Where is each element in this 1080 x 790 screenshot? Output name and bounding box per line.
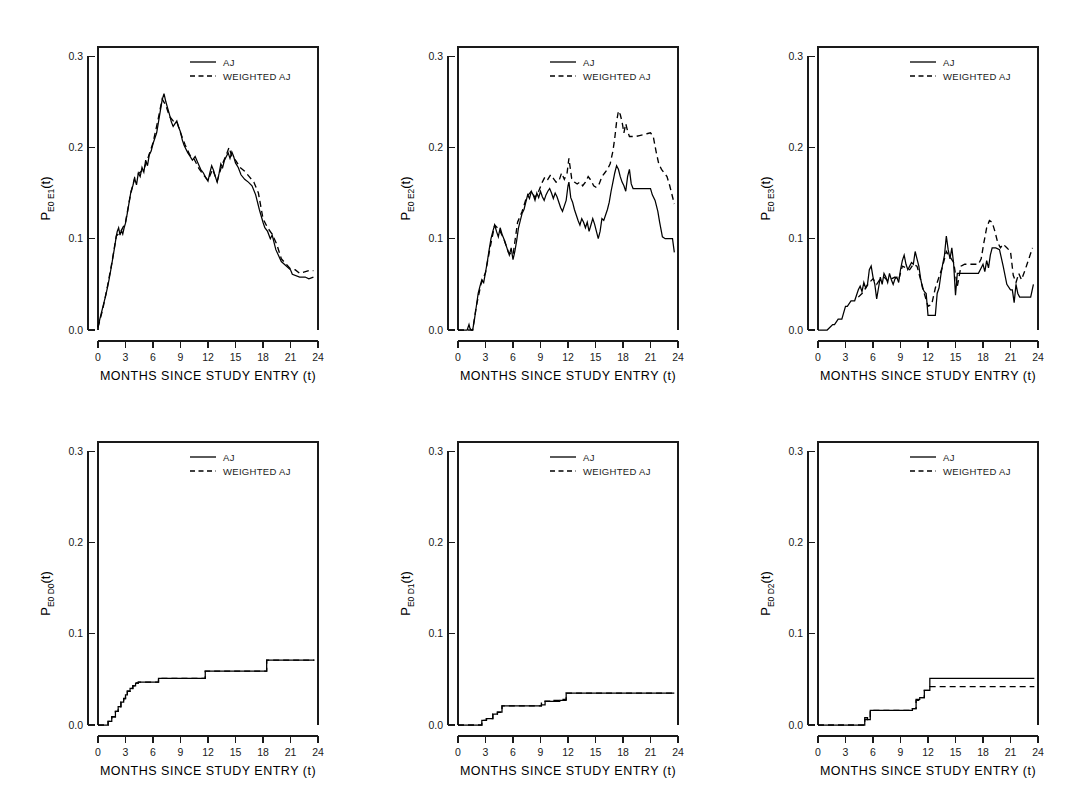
plot-frame bbox=[98, 47, 318, 330]
y-tick-label: 0.0 bbox=[428, 719, 443, 731]
x-tick-label: 21 bbox=[645, 746, 657, 758]
x-tick-label: 6 bbox=[150, 746, 156, 758]
x-tick-label: 18 bbox=[617, 746, 629, 758]
y-tick-label: 0.0 bbox=[788, 719, 803, 731]
panel-e0d0: 0.00.10.20.303691215182124MONTHS SINCE S… bbox=[0, 395, 360, 790]
x-tick-label: 0 bbox=[95, 746, 101, 758]
legend-label: AJ bbox=[583, 452, 595, 463]
x-tick-label: 21 bbox=[1005, 351, 1017, 363]
legend-label: WEIGHTED AJ bbox=[223, 466, 291, 477]
series-line-solid bbox=[818, 236, 1033, 330]
legend-label: AJ bbox=[943, 452, 955, 463]
legend: AJWEIGHTED AJ bbox=[550, 452, 651, 477]
x-tick-label: 0 bbox=[455, 746, 461, 758]
legend-label: AJ bbox=[223, 452, 235, 463]
y-axis-title: PE0 D2(t) bbox=[758, 571, 776, 616]
legend-label: WEIGHTED AJ bbox=[583, 466, 651, 477]
y-tick-label: 0.3 bbox=[68, 50, 83, 62]
x-tick-label: 9 bbox=[538, 746, 544, 758]
legend-label: AJ bbox=[943, 57, 955, 68]
y-axis-title: PE0 E1(t) bbox=[38, 176, 56, 220]
x-tick-label: 0 bbox=[815, 746, 821, 758]
svg-text:PE0 E3(t): PE0 E3(t) bbox=[758, 176, 776, 220]
figure-panel-grid: 0.00.10.20.303691215182124MONTHS SINCE S… bbox=[0, 0, 1080, 790]
legend-label: WEIGHTED AJ bbox=[943, 466, 1011, 477]
panel-e0d2: 0.00.10.20.303691215182124MONTHS SINCE S… bbox=[720, 395, 1080, 790]
y-tick-label: 0.0 bbox=[68, 719, 83, 731]
x-tick-label: 18 bbox=[977, 351, 989, 363]
x-tick-label: 3 bbox=[483, 746, 489, 758]
x-tick-label: 3 bbox=[843, 351, 849, 363]
x-tick-label: 6 bbox=[870, 746, 876, 758]
svg-text:PE0 E1(t): PE0 E1(t) bbox=[38, 176, 56, 220]
legend: AJWEIGHTED AJ bbox=[190, 57, 291, 82]
panel-e0e2: 0.00.10.20.303691215182124MONTHS SINCE S… bbox=[360, 0, 720, 395]
y-tick-label: 0.2 bbox=[788, 536, 803, 548]
legend: AJWEIGHTED AJ bbox=[550, 57, 651, 82]
series-line-dashed bbox=[858, 220, 1032, 306]
legend: AJWEIGHTED AJ bbox=[910, 452, 1011, 477]
x-axis-title: MONTHS SINCE STUDY ENTRY (t) bbox=[820, 369, 1036, 383]
svg-text:PE0 D0(t): PE0 D0(t) bbox=[38, 571, 56, 616]
legend: AJWEIGHTED AJ bbox=[910, 57, 1011, 82]
x-tick-label: 0 bbox=[95, 351, 101, 363]
x-tick-label: 24 bbox=[312, 746, 324, 758]
x-tick-label: 6 bbox=[510, 351, 516, 363]
y-tick-label: 0.3 bbox=[68, 445, 83, 457]
x-tick-label: 24 bbox=[672, 351, 684, 363]
y-tick-label: 0.0 bbox=[68, 324, 83, 336]
x-tick-label: 0 bbox=[455, 351, 461, 363]
y-tick-label: 0.1 bbox=[68, 232, 83, 244]
x-tick-label: 12 bbox=[202, 746, 214, 758]
y-tick-label: 0.1 bbox=[428, 232, 443, 244]
legend: AJWEIGHTED AJ bbox=[190, 452, 291, 477]
x-tick-label: 6 bbox=[150, 351, 156, 363]
x-tick-label: 9 bbox=[898, 746, 904, 758]
series-line-dashed bbox=[818, 687, 1034, 725]
series-line-dashed bbox=[458, 111, 674, 330]
x-tick-label: 9 bbox=[178, 746, 184, 758]
x-tick-label: 24 bbox=[1032, 746, 1044, 758]
x-axis-title: MONTHS SINCE STUDY ENTRY (t) bbox=[100, 369, 316, 383]
x-tick-label: 15 bbox=[230, 351, 242, 363]
series-line-solid bbox=[98, 660, 314, 725]
y-axis-title: PE0 D0(t) bbox=[38, 571, 56, 616]
x-tick-label: 15 bbox=[590, 351, 602, 363]
series-line-solid bbox=[98, 94, 313, 328]
y-tick-label: 0.1 bbox=[788, 627, 803, 639]
x-tick-label: 18 bbox=[977, 746, 989, 758]
svg-text:PE0 E2(t): PE0 E2(t) bbox=[398, 176, 416, 220]
plot-frame bbox=[98, 442, 318, 725]
x-tick-label: 18 bbox=[257, 351, 269, 363]
panel-e0d1: 0.00.10.20.303691215182124MONTHS SINCE S… bbox=[360, 395, 720, 790]
legend-label: WEIGHTED AJ bbox=[223, 71, 291, 82]
x-axis-title: MONTHS SINCE STUDY ENTRY (t) bbox=[100, 764, 316, 778]
x-tick-label: 12 bbox=[562, 351, 574, 363]
legend-label: WEIGHTED AJ bbox=[943, 71, 1011, 82]
x-tick-label: 24 bbox=[672, 746, 684, 758]
x-tick-label: 12 bbox=[562, 746, 574, 758]
x-axis-title: MONTHS SINCE STUDY ENTRY (t) bbox=[820, 764, 1036, 778]
svg-text:PE0 D1(t): PE0 D1(t) bbox=[398, 571, 416, 616]
x-tick-label: 9 bbox=[898, 351, 904, 363]
y-tick-label: 0.2 bbox=[428, 141, 443, 153]
y-tick-label: 0.2 bbox=[428, 536, 443, 548]
x-tick-label: 18 bbox=[617, 351, 629, 363]
x-tick-label: 0 bbox=[815, 351, 821, 363]
series-line-dashed bbox=[98, 99, 313, 327]
y-tick-label: 0.3 bbox=[428, 445, 443, 457]
y-tick-label: 0.2 bbox=[788, 141, 803, 153]
x-tick-label: 15 bbox=[950, 351, 962, 363]
x-tick-label: 24 bbox=[312, 351, 324, 363]
x-tick-label: 12 bbox=[922, 746, 934, 758]
panel-e0e3: 0.00.10.20.303691215182124MONTHS SINCE S… bbox=[720, 0, 1080, 395]
x-tick-label: 15 bbox=[230, 746, 242, 758]
x-tick-label: 3 bbox=[843, 746, 849, 758]
x-tick-label: 18 bbox=[257, 746, 269, 758]
x-tick-label: 6 bbox=[870, 351, 876, 363]
x-tick-label: 21 bbox=[645, 351, 657, 363]
x-axis-title: MONTHS SINCE STUDY ENTRY (t) bbox=[460, 369, 676, 383]
series-line-solid bbox=[818, 678, 1034, 725]
x-tick-label: 3 bbox=[123, 746, 129, 758]
x-axis-title: MONTHS SINCE STUDY ENTRY (t) bbox=[460, 764, 676, 778]
